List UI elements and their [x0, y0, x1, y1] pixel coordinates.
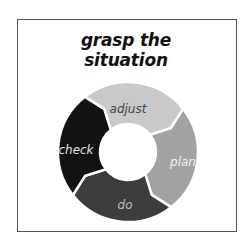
cycle-center-hole	[100, 124, 156, 180]
segment-label-do: do	[118, 198, 133, 212]
segment-label-adjust: adjust	[110, 102, 148, 116]
segment-label-check: check	[58, 143, 94, 157]
cycle-diagram: adjustplandocheck	[0, 0, 252, 249]
segment-label-plan: plan	[169, 155, 196, 169]
